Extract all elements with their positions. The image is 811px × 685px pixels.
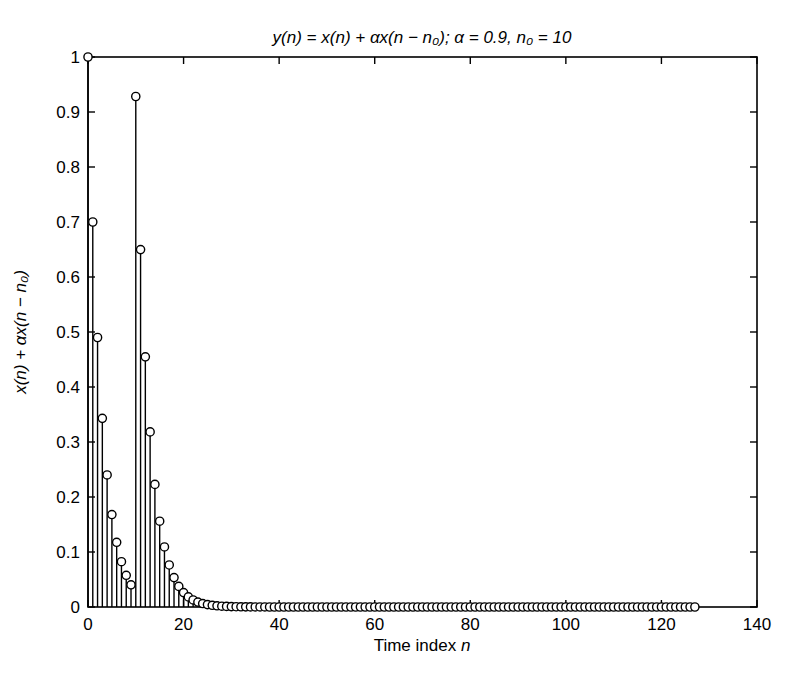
x-tick-label: 80 bbox=[461, 615, 480, 634]
x-tick-label: 0 bbox=[83, 615, 92, 634]
y-tick-label: 0.7 bbox=[56, 213, 80, 232]
y-tick-label: 0.4 bbox=[56, 378, 80, 397]
figure-canvas: 02040608010012014000.10.20.30.40.50.60.7… bbox=[0, 0, 811, 685]
y-tick-label: 0.5 bbox=[56, 323, 80, 342]
x-axis-label: Time index n bbox=[374, 636, 471, 655]
stem-marker bbox=[103, 471, 111, 479]
y-tick-label: 1 bbox=[71, 48, 80, 67]
x-tick-label: 40 bbox=[270, 615, 289, 634]
y-tick-label: 0.9 bbox=[56, 103, 80, 122]
stem-marker bbox=[160, 543, 168, 551]
stem-marker bbox=[691, 603, 699, 611]
y-tick-label: 0.2 bbox=[56, 488, 80, 507]
stem-marker bbox=[93, 333, 101, 341]
stem-marker bbox=[108, 510, 116, 518]
stem-marker bbox=[136, 246, 144, 254]
stem-marker bbox=[146, 428, 154, 436]
y-tick-label: 0.3 bbox=[56, 433, 80, 452]
stem-marker bbox=[117, 558, 125, 566]
x-tick-label: 120 bbox=[647, 615, 675, 634]
x-tick-label: 60 bbox=[365, 615, 384, 634]
stem-marker bbox=[165, 561, 173, 569]
markers-layer bbox=[84, 53, 699, 611]
y-tick-label: 0.8 bbox=[56, 158, 80, 177]
stem-marker bbox=[89, 218, 97, 226]
stem-marker bbox=[156, 517, 164, 525]
y-tick-label: 0.6 bbox=[56, 268, 80, 287]
stem-marker bbox=[127, 581, 135, 589]
stem-marker bbox=[151, 480, 159, 488]
x-tick-label: 20 bbox=[174, 615, 193, 634]
stem-marker bbox=[141, 353, 149, 361]
stem-marker bbox=[170, 573, 178, 581]
stem-marker bbox=[113, 538, 121, 546]
stem-marker bbox=[84, 53, 92, 61]
y-tick-label: 0 bbox=[71, 598, 80, 617]
y-axis-label: x(n) + αx(n − n₀) bbox=[11, 270, 30, 395]
x-tick-label: 100 bbox=[552, 615, 580, 634]
x-tick-label: 140 bbox=[743, 615, 771, 634]
stem-plot: 02040608010012014000.10.20.30.40.50.60.7… bbox=[0, 0, 811, 685]
stem-marker bbox=[98, 414, 106, 422]
y-tick-label: 0.1 bbox=[56, 543, 80, 562]
figure-title: y(n) = x(n) + αx(n − n₀); α = 0.9, n₀ = … bbox=[272, 28, 572, 47]
x-axis-label-text: Time index bbox=[374, 636, 461, 655]
x-axis-label-variable: n bbox=[461, 636, 470, 655]
stem-marker bbox=[122, 571, 130, 579]
stem-marker bbox=[132, 92, 140, 100]
plot-box bbox=[88, 57, 757, 607]
